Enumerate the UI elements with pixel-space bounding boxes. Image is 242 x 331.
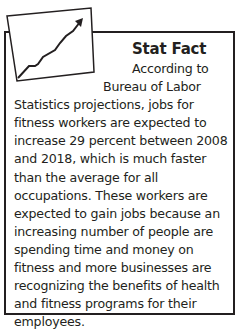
box-title: Stat Fact bbox=[132, 40, 206, 58]
stat-fact-text: According to Bureau of Labor Statistics … bbox=[14, 60, 236, 331]
text-paragraph: Statistics projections, jobs for fitness… bbox=[14, 97, 227, 329]
rising-line-chart-icon bbox=[2, 2, 98, 84]
